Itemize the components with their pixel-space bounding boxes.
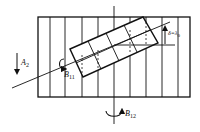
- label-delta-sub: 0: [177, 33, 180, 38]
- diagram-canvas: [0, 0, 200, 132]
- label-a2: A2: [21, 59, 29, 68]
- label-b12: B12: [125, 110, 136, 119]
- label-b11-sub: 11: [69, 74, 75, 80]
- label-delta: δ=λ0: [168, 30, 180, 38]
- label-b11: B11: [64, 71, 75, 80]
- label-b12-sub: 12: [130, 113, 136, 119]
- label-a2-sub: 2: [26, 62, 29, 68]
